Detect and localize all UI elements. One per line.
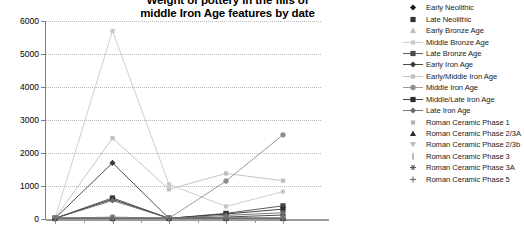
legend-marker [400,105,426,116]
legend-item-label: Roman Ceramic Phase 3 [426,152,510,161]
square-small-marker [281,190,285,194]
diamond-filled-marker [410,108,416,114]
legend-marker [400,139,426,150]
legend-marker [400,174,426,185]
plus-marker [410,176,416,182]
chart-legend: Early NeolithicLate NeolithicEarly Bronz… [400,2,524,185]
legend-marker [400,117,426,128]
legend-item-label: Late Neolithic [426,15,471,24]
legend-item-label: Early Neolithic [426,3,474,12]
chart-container: Weight of pottery in the fills of middle… [0,0,524,241]
square-small-marker [224,171,228,175]
square-small-marker [224,204,228,208]
legend-item[interactable]: Early Bronze Age [400,25,524,36]
legend-item[interactable]: Roman Ceramic Phase 1 [400,116,524,127]
square-filled-marker [410,17,415,22]
legend-item-label: Early Iron Age [426,60,473,69]
legend-item[interactable]: Roman Ceramic Phase 5 [400,174,524,185]
square-small-marker [167,182,171,186]
legend-item-label: Roman Ceramic Phase 2/3b [426,140,520,149]
legend-item[interactable]: Late Bronze Age [400,48,524,59]
legend-item[interactable]: Late Neolithic [400,13,524,24]
triangle-up-marker [410,28,416,34]
legend-item[interactable]: Late Iron Age [400,105,524,116]
square-small-marker [411,40,415,44]
legend-item-label: Roman Ceramic Phase 3A [426,163,515,172]
legend-marker [400,2,426,13]
legend-item-label: Early/Middle Iron Age [426,72,497,81]
square-small-marker [110,136,114,140]
legend-item[interactable]: Middle Bronze Age [400,36,524,47]
square-small-marker [281,179,285,183]
legend-item-label: Late Bronze Age [426,49,481,58]
legend-marker [400,48,426,59]
asterisk-marker [410,165,416,170]
legend-marker [400,128,426,139]
diamond-filled-marker [410,62,416,68]
legend-marker [400,37,426,48]
legend-item[interactable]: Early Neolithic [400,2,524,13]
legend-item-label: Middle Bronze Age [426,38,489,47]
legend-marker [400,25,426,36]
diamond-filled-marker [410,5,416,11]
legend-item-label: Middle/Late Iron Age [426,95,495,104]
triangle-up-filled-marker [410,131,416,137]
triangle-down-marker [410,142,416,148]
legend-item-label: Roman Ceramic Phase 2/3A [426,129,521,138]
legend-marker [400,162,426,173]
legend-marker [400,59,426,70]
square-small-marker [411,74,415,78]
legend-item[interactable]: Middle Iron Age [400,82,524,93]
data-series [53,29,285,220]
square-small-marker [411,120,415,124]
legend-item-label: Roman Ceramic Phase 5 [426,175,510,184]
square-small-marker [110,29,114,33]
square-filled-marker [410,51,415,56]
legend-item[interactable]: Roman Ceramic Phase 2/3b [400,139,524,150]
legend-item[interactable]: Roman Ceramic Phase 3A [400,162,524,173]
legend-item[interactable]: Early/Middle Iron Age [400,71,524,82]
square-filled-marker [410,97,415,102]
circle-filled-marker [280,132,285,137]
circle-filled-marker [410,85,415,90]
legend-item-label: Middle Iron Age [426,83,478,92]
legend-item[interactable]: Roman Ceramic Phase 3 [400,151,524,162]
bar-vertical-marker [412,153,413,159]
legend-item[interactable]: Early Iron Age [400,59,524,70]
legend-item[interactable]: Middle/Late Iron Age [400,94,524,105]
square-small-marker [167,187,171,191]
legend-item-label: Early Bronze Age [426,26,484,35]
legend-marker [400,82,426,93]
legend-marker [400,71,426,82]
legend-marker [400,94,426,105]
legend-item[interactable]: Roman Ceramic Phase 2/3A [400,128,524,139]
legend-item-label: Roman Ceramic Phase 1 [426,118,510,127]
circle-filled-marker [223,178,228,183]
legend-marker [400,151,426,162]
legend-item-label: Late Iron Age [426,106,471,115]
legend-marker [400,14,426,25]
